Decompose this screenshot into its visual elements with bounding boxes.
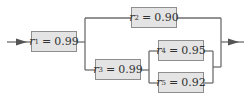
r4-equals: = [169, 44, 178, 57]
r1-equals: = [42, 35, 51, 48]
r3-subscript: 3 [99, 66, 103, 74]
r1-subscript: 1 [35, 38, 39, 46]
component-r4: r4=0.95 [158, 40, 204, 61]
r5-subscript: 5 [162, 79, 166, 87]
r5-equals: = [169, 76, 178, 89]
input-arrow-icon [16, 39, 27, 46]
output-arrow-icon [228, 39, 239, 46]
component-r2: r2=0.90 [131, 7, 177, 28]
r5-value: 0.92 [181, 76, 206, 89]
r4-value: 0.95 [181, 44, 206, 57]
r4-subscript: 4 [162, 47, 166, 55]
r3-equals: = [106, 63, 115, 76]
component-r5: r5=0.92 [158, 72, 204, 93]
component-r3: r3=0.99 [95, 59, 141, 80]
r2-equals: = [142, 11, 151, 24]
r1-value: 0.99 [54, 35, 79, 48]
r2-value: 0.90 [154, 11, 179, 24]
r3-value: 0.99 [118, 63, 143, 76]
r2-subscript: 2 [135, 14, 139, 22]
component-r1: r1=0.99 [31, 31, 77, 52]
